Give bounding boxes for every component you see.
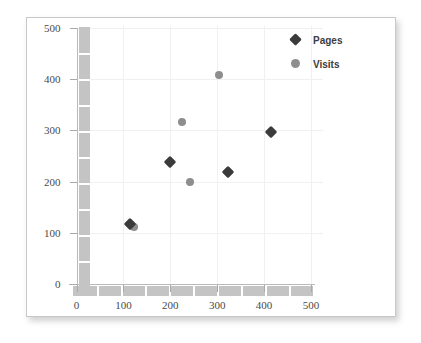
gridline-vertical xyxy=(264,26,265,284)
x-axis-tick-label: 0 xyxy=(60,300,94,311)
axis-segment-gap xyxy=(241,286,243,296)
x-axis-tick xyxy=(77,285,78,292)
y-axis-tick xyxy=(70,182,77,183)
y-axis-tick-label: 300 xyxy=(27,125,61,136)
axis-segment-gap xyxy=(121,286,123,296)
data-point-pages[interactable] xyxy=(221,166,234,179)
x-axis-tick xyxy=(123,285,124,292)
y-axis-tick-label: 400 xyxy=(27,74,61,85)
circle-marker-icon xyxy=(289,57,303,71)
data-point-pages[interactable] xyxy=(164,156,177,169)
axis-segment-gap xyxy=(145,286,147,296)
axis-segment-gap xyxy=(79,183,90,185)
y-axis-tick-label: 0 xyxy=(27,279,61,290)
x-axis-tick-label: 400 xyxy=(247,300,281,311)
axis-segment-gap xyxy=(193,286,195,296)
diamond-marker-icon xyxy=(289,33,303,47)
data-point-pages[interactable] xyxy=(265,126,278,139)
gridline-vertical xyxy=(217,26,218,284)
y-axis-tick xyxy=(70,284,77,285)
chart-frame: 01002003004005000100200300400500 PagesVi… xyxy=(26,17,396,317)
x-axis-tick-label: 300 xyxy=(200,300,234,311)
axis-segment-gap xyxy=(97,286,99,296)
axis-segment-gap xyxy=(79,209,90,211)
x-axis-tick xyxy=(311,285,312,292)
x-axis-spine xyxy=(69,284,316,285)
gridline-horizontal xyxy=(75,233,323,234)
legend-item-visits[interactable]: Visits xyxy=(289,52,381,76)
legend-item-label: Pages xyxy=(313,35,342,46)
axis-segment-gap xyxy=(79,79,90,81)
gridline-horizontal xyxy=(75,28,323,29)
y-axis-tick xyxy=(70,79,77,80)
gridline-horizontal xyxy=(75,130,323,131)
axis-segment-gap xyxy=(79,53,90,55)
y-axis-tick xyxy=(70,233,77,234)
gridline-horizontal xyxy=(75,79,323,80)
x-axis-tick xyxy=(217,285,218,292)
data-point-visits[interactable] xyxy=(178,118,186,126)
y-axis-tick xyxy=(70,130,77,131)
gridline-horizontal xyxy=(75,182,323,183)
x-axis-tick-label: 200 xyxy=(153,300,187,311)
axis-segment-gap xyxy=(79,131,90,133)
axis-segment-gap xyxy=(79,235,90,237)
legend-item-pages[interactable]: Pages xyxy=(289,28,381,52)
x-axis-tick xyxy=(264,285,265,292)
x-axis-tick-label: 500 xyxy=(294,300,328,311)
axis-segment-gap xyxy=(265,286,267,296)
data-point-visits[interactable] xyxy=(186,178,194,186)
axis-segment-gap xyxy=(289,286,291,296)
axis-segment-gap xyxy=(79,261,90,263)
legend-swatch xyxy=(289,33,302,46)
y-axis-tick-label: 500 xyxy=(27,23,61,34)
axis-segment-gap xyxy=(79,157,90,159)
y-axis-tick-label: 200 xyxy=(27,177,61,188)
chart-screenshot: 01002003004005000100200300400500 PagesVi… xyxy=(0,0,421,343)
y-axis-tick-label: 100 xyxy=(27,228,61,239)
axis-segment-gap xyxy=(79,105,90,107)
data-point-visits[interactable] xyxy=(215,71,223,79)
gridline-vertical xyxy=(170,26,171,284)
x-axis-tick xyxy=(170,285,171,292)
y-axis-spine xyxy=(77,28,78,290)
legend-item-label: Visits xyxy=(313,59,340,70)
legend-swatch xyxy=(291,59,300,68)
gridline-vertical xyxy=(123,26,124,284)
x-axis-tick-label: 100 xyxy=(106,300,140,311)
chart-legend: PagesVisits xyxy=(289,28,381,76)
y-axis-tick xyxy=(70,28,77,29)
